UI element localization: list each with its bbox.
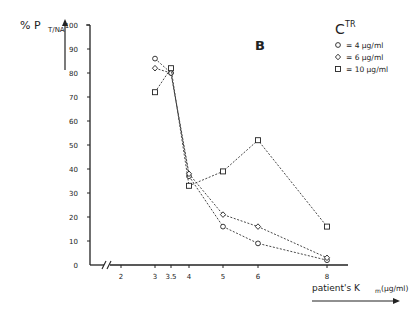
svg-text:T/NA: T/NA <box>47 26 65 34</box>
svg-text:% P: % P <box>20 19 41 32</box>
diamond-marker-icon <box>255 224 260 230</box>
square-marker-icon <box>325 224 330 229</box>
y-tick-label: 70 <box>69 94 78 102</box>
circle-marker-icon <box>336 43 341 48</box>
circle-marker-icon <box>221 224 226 229</box>
legend-label: = 6 µg/ml <box>346 53 383 62</box>
svg-text:(µg/ml): (µg/ml) <box>381 284 408 293</box>
y-tick-label: 40 <box>69 166 78 174</box>
panel-label: B <box>255 38 265 53</box>
legend-label: = 4 µg/ml <box>346 41 383 50</box>
x-tick-label: 4 <box>187 273 192 281</box>
x-tick-label: 3.5 <box>165 273 176 281</box>
y-tick-label: 20 <box>69 214 78 222</box>
legend-title: C <box>335 21 345 37</box>
y-tick-label: 0 <box>74 262 78 270</box>
y-tick-label: 30 <box>69 190 78 198</box>
legend-entry: = 10 µg/ml <box>336 65 389 74</box>
y-tick-label: 50 <box>69 142 78 150</box>
y-tick-label: 80 <box>69 70 78 78</box>
x-axis: 233.54568 <box>90 261 348 281</box>
square-marker-icon <box>221 169 226 174</box>
y-axis-label: % P T/NA <box>20 19 65 34</box>
legend-entry: = 6 µg/ml <box>335 53 383 62</box>
series-circle <box>153 56 330 262</box>
y-tick-label: 10 <box>69 238 78 246</box>
legend-entry: = 4 µg/ml <box>336 41 384 50</box>
legend-label: = 10 µg/ml <box>346 65 388 74</box>
series-diamond <box>152 65 329 260</box>
square-marker-icon <box>187 183 192 188</box>
diamond-marker-icon <box>152 65 157 71</box>
y-axis: 0102030405060708090100 <box>65 22 90 270</box>
x-tick-label: 6 <box>256 273 261 281</box>
x-tick-label: 2 <box>119 273 123 281</box>
diamond-marker-icon <box>335 54 340 60</box>
chart: % P T/NA 0102030405060708090100 233.5456… <box>0 0 415 313</box>
y-tick-label: 100 <box>65 22 78 30</box>
square-marker-icon <box>169 66 174 71</box>
legend: C TR = 4 µg/ml= 6 µg/ml= 10 µg/ml <box>335 20 388 74</box>
series-square <box>153 66 330 229</box>
x-tick-label: 8 <box>325 273 329 281</box>
x-tick-label: 3 <box>153 273 157 281</box>
y-tick-label: 60 <box>69 118 78 126</box>
x-tick-label: 5 <box>221 273 225 281</box>
x-axis-label: patient's K m (µg/ml) <box>312 283 408 294</box>
svg-text:patient's K: patient's K <box>312 283 361 293</box>
square-marker-icon <box>256 138 261 143</box>
legend-title-sup: TR <box>344 20 356 29</box>
x-arrowhead-icon <box>393 298 400 304</box>
y-tick-label: 90 <box>69 46 78 54</box>
circle-marker-icon <box>256 241 261 246</box>
data-series <box>152 56 329 262</box>
square-marker-icon <box>336 67 341 72</box>
square-marker-icon <box>153 90 158 95</box>
circle-marker-icon <box>153 56 158 61</box>
